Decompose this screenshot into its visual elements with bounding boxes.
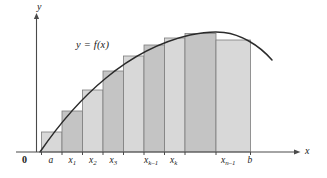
x-tick-label-x3: x3 [110, 156, 118, 166]
tick-label-subscript: 1 [73, 159, 76, 166]
function-equation-label: y = f(x) [76, 40, 109, 51]
tick-label-subscript: n–1 [225, 159, 235, 166]
tick-label-subscript: 3 [114, 159, 117, 166]
tick-label-subscript: 2 [93, 159, 96, 166]
x-tick-label-a: a [49, 156, 54, 166]
x-tick-label-b: b [248, 156, 253, 166]
figure-canvas [0, 0, 327, 178]
riemann-rectangle [216, 40, 251, 152]
riemann-rectangle [144, 45, 165, 152]
riemann-rectangle [185, 34, 216, 153]
x-tick-label-xn1: xn–1 [221, 156, 235, 166]
x-axis-label: x [305, 146, 309, 156]
y-axis-arrowhead [34, 13, 39, 19]
tick-label-subscript: k–1 [148, 159, 158, 166]
y-axis-label: y [37, 2, 41, 12]
x-axis-arrowhead [294, 149, 301, 154]
riemann-sum-figure: y x 0 y = f(x) ax1x2x3xk–1xkxn–1b [0, 0, 327, 178]
x-tick-label-xk: xk [170, 156, 177, 166]
riemann-rectangle [103, 71, 124, 152]
origin-label: 0 [22, 155, 27, 165]
x-tick-label-x1: x1 [69, 156, 77, 166]
x-tick-label-xk1: xk–1 [144, 156, 158, 166]
riemann-rectangle [83, 90, 104, 152]
riemann-rectangle [62, 111, 83, 152]
x-tick-label-x2: x2 [89, 156, 97, 166]
riemann-rectangle [165, 38, 186, 152]
riemann-rectangle [124, 56, 145, 152]
tick-label-subscript: k [174, 159, 177, 166]
